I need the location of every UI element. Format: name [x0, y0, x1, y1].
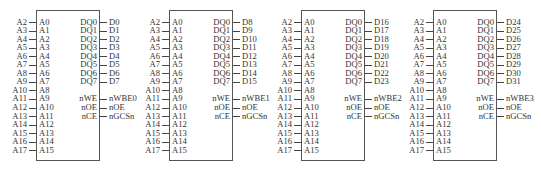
pin-wire — [162, 48, 169, 49]
pin-wire — [29, 99, 36, 100]
pin-wire — [162, 150, 169, 151]
pin-wire — [426, 31, 433, 32]
pin-wire — [29, 90, 36, 91]
pin-wire — [294, 142, 301, 143]
pin-wire — [294, 31, 301, 32]
chip-data-pin: nCE — [215, 112, 230, 121]
pin-wire — [233, 31, 240, 32]
pin-wire — [29, 125, 36, 126]
data-signal: nGCSn — [242, 112, 267, 121]
pin-wire — [162, 73, 169, 74]
pin-wire — [29, 82, 36, 83]
pin-wire — [100, 82, 107, 83]
pin-wire — [162, 108, 169, 109]
pin-wire — [100, 73, 107, 74]
pin-wire — [100, 56, 107, 57]
pin-wire — [497, 116, 504, 117]
chip-data-pin: DQ7 — [345, 77, 362, 86]
pin-wire — [100, 22, 107, 23]
pin-wire — [294, 99, 301, 100]
address-signal: A17 — [12, 146, 27, 155]
pin-wire — [29, 142, 36, 143]
pin-wire — [426, 125, 433, 126]
pin-wire — [233, 73, 240, 74]
pin-wire — [294, 125, 301, 126]
chip-data-pin: DQ7 — [213, 77, 230, 86]
pin-wire — [497, 56, 504, 57]
pin-wire — [162, 99, 169, 100]
pin-wire — [100, 65, 107, 66]
pin-wire — [426, 65, 433, 66]
data-signal: D31 — [506, 77, 521, 86]
pin-wire — [365, 22, 372, 23]
pin-wire — [426, 39, 433, 40]
data-signal: D7 — [109, 77, 120, 86]
pin-wire — [233, 116, 240, 117]
pin-wire — [426, 150, 433, 151]
pin-wire — [365, 99, 372, 100]
data-signal: nGCSn — [109, 112, 134, 121]
pin-wire — [29, 31, 36, 32]
pin-wire — [294, 133, 301, 134]
pin-wire — [29, 48, 36, 49]
chip-data-pin: DQ7 — [80, 77, 97, 86]
pin-wire — [29, 133, 36, 134]
pin-wire — [426, 116, 433, 117]
pin-wire — [29, 108, 36, 109]
pin-wire — [233, 48, 240, 49]
pin-wire — [497, 108, 504, 109]
pin-wire — [365, 56, 372, 57]
pin-wire — [29, 65, 36, 66]
pin-wire — [100, 31, 107, 32]
pin-wire — [162, 142, 169, 143]
pin-wire — [365, 82, 372, 83]
address-signal: A17 — [145, 146, 160, 155]
chip-data-pin: nCE — [347, 112, 362, 121]
pin-wire — [426, 108, 433, 109]
pin-wire — [497, 82, 504, 83]
pin-wire — [497, 73, 504, 74]
chip-address-pin: A15 — [172, 146, 187, 155]
pin-wire — [100, 99, 107, 100]
pin-wire — [497, 39, 504, 40]
pin-wire — [29, 22, 36, 23]
pin-wire — [233, 56, 240, 57]
pin-wire — [233, 99, 240, 100]
chip-data-pin: nCE — [82, 112, 97, 121]
pin-wire — [426, 133, 433, 134]
pin-wire — [29, 116, 36, 117]
pin-wire — [29, 150, 36, 151]
pin-wire — [365, 39, 372, 40]
pin-wire — [365, 108, 372, 109]
pin-wire — [100, 39, 107, 40]
pin-wire — [497, 65, 504, 66]
chip-data-pin: nCE — [479, 112, 494, 121]
pin-wire — [100, 108, 107, 109]
pin-wire — [426, 99, 433, 100]
pin-wire — [100, 116, 107, 117]
address-signal: A17 — [409, 146, 424, 155]
pin-wire — [426, 56, 433, 57]
pin-wire — [29, 73, 36, 74]
pin-wire — [497, 31, 504, 32]
pin-wire — [294, 56, 301, 57]
pin-wire — [294, 108, 301, 109]
pin-wire — [162, 56, 169, 57]
pin-wire — [233, 22, 240, 23]
pin-wire — [294, 65, 301, 66]
pin-wire — [29, 56, 36, 57]
data-signal: nGCSn — [506, 112, 531, 121]
chip-data-pin: DQ7 — [477, 77, 494, 86]
pin-wire — [294, 116, 301, 117]
address-signal: A17 — [277, 146, 292, 155]
chip-address-pin: A15 — [39, 146, 54, 155]
pin-wire — [162, 116, 169, 117]
pin-wire — [497, 22, 504, 23]
pin-wire — [162, 31, 169, 32]
pin-wire — [365, 73, 372, 74]
pin-wire — [233, 65, 240, 66]
pin-wire — [365, 116, 372, 117]
pin-wire — [29, 39, 36, 40]
pin-wire — [426, 142, 433, 143]
pin-wire — [365, 48, 372, 49]
